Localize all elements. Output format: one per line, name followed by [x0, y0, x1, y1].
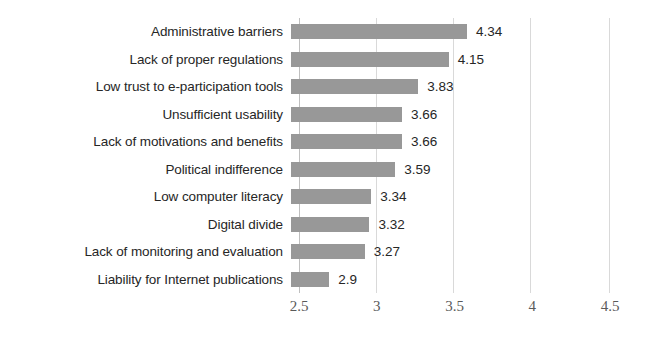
- bar: [291, 79, 418, 94]
- bar: [291, 217, 369, 232]
- bar: [291, 189, 371, 204]
- bar-cell: 4.15: [291, 46, 658, 74]
- bar-row: Low computer literacy3.34: [0, 183, 658, 211]
- bar-row: Low trust to e-participation tools3.83: [0, 73, 658, 101]
- bar-chart: Administrative barriers4.34Lack of prope…: [0, 0, 658, 355]
- bar-cell: 3.66: [291, 128, 658, 156]
- value-label: 2.9: [338, 272, 357, 287]
- bar-row: Political indifference3.59: [0, 156, 658, 184]
- x-tick-label: 3: [373, 298, 381, 315]
- value-label: 3.34: [380, 189, 406, 204]
- bar-cell: 4.34: [291, 18, 658, 46]
- x-tick-label: 4.5: [601, 298, 620, 315]
- bar-row: Lack of monitoring and evaluation3.27: [0, 238, 658, 266]
- bar-cell: 2.9: [291, 266, 658, 294]
- x-tick-label: 3.5: [445, 298, 464, 315]
- value-label: 3.59: [404, 162, 430, 177]
- category-label: Lack of motivations and benefits: [0, 134, 291, 149]
- bar-cell: 3.59: [291, 156, 658, 184]
- bar-cell: 3.83: [291, 73, 658, 101]
- category-label: Low computer literacy: [0, 189, 291, 204]
- x-tick-label: 4: [529, 298, 537, 315]
- bar-row: Lack of proper regulations4.15: [0, 46, 658, 74]
- value-label: 3.66: [411, 134, 437, 149]
- category-label: Liability for Internet publications: [0, 272, 291, 287]
- bar-row: Liability for Internet publications2.9: [0, 266, 658, 294]
- bar-cell: 3.27: [291, 238, 658, 266]
- value-label: 3.27: [374, 244, 400, 259]
- x-axis: 2.533.544.5: [0, 298, 658, 328]
- bar-row: Unsufficient usability3.66: [0, 101, 658, 129]
- bar-row: Digital divide3.32: [0, 211, 658, 239]
- category-label: Unsufficient usability: [0, 107, 291, 122]
- category-label: Political indifference: [0, 162, 291, 177]
- x-tick-label: 2.5: [290, 298, 309, 315]
- value-label: 4.34: [476, 24, 502, 39]
- bar: [291, 162, 395, 177]
- value-label: 3.66: [411, 107, 437, 122]
- bar-row: Lack of motivations and benefits3.66: [0, 128, 658, 156]
- bar-rows: Administrative barriers4.34Lack of prope…: [0, 18, 658, 293]
- value-label: 3.32: [378, 217, 404, 232]
- bar-cell: 3.32: [291, 211, 658, 239]
- bar-cell: 3.34: [291, 183, 658, 211]
- bar: [291, 244, 365, 259]
- category-label: Low trust to e-participation tools: [0, 79, 291, 94]
- bar: [291, 134, 402, 149]
- bar-cell: 3.66: [291, 101, 658, 129]
- value-label: 3.83: [427, 79, 453, 94]
- category-label: Administrative barriers: [0, 24, 291, 39]
- bar: [291, 107, 402, 122]
- bar: [291, 52, 449, 67]
- value-label: 4.15: [458, 52, 484, 67]
- category-label: Lack of monitoring and evaluation: [0, 244, 291, 259]
- bar: [291, 272, 329, 287]
- category-label: Lack of proper regulations: [0, 52, 291, 67]
- category-label: Digital divide: [0, 217, 291, 232]
- bar-row: Administrative barriers4.34: [0, 18, 658, 46]
- bar: [291, 24, 467, 39]
